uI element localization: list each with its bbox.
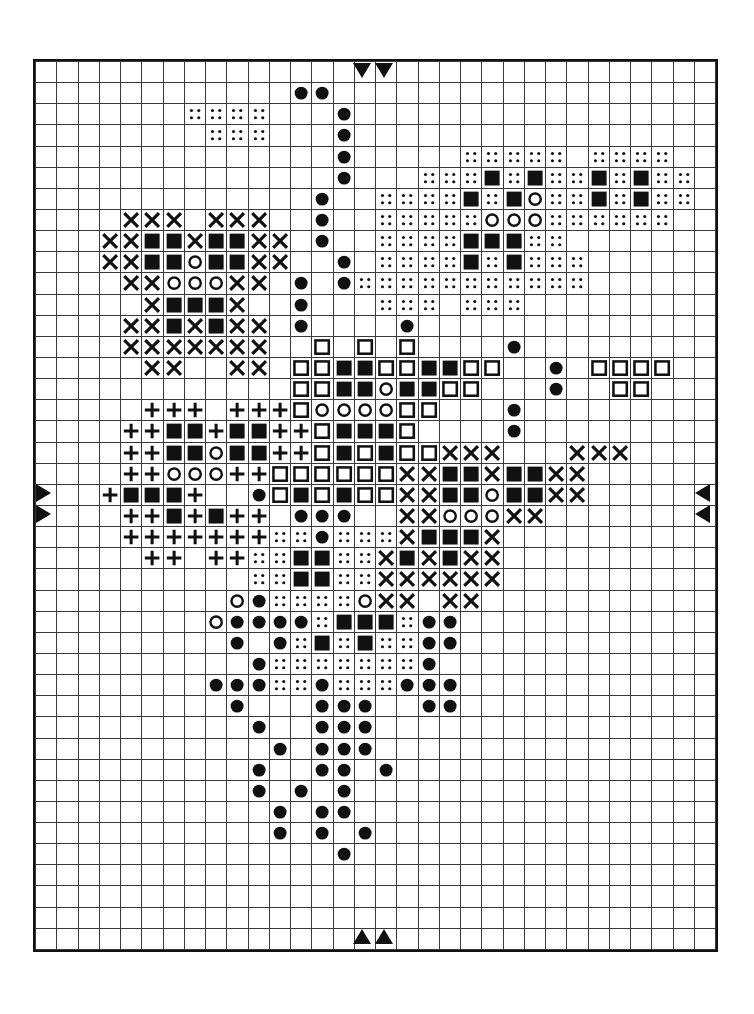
stitch-cell <box>503 400 524 421</box>
stitch-cell <box>418 463 439 484</box>
stitch-cell-empty <box>57 569 78 590</box>
stitch-cell-empty <box>588 336 609 357</box>
stitch-cell <box>227 442 248 463</box>
stitch-cell-empty <box>36 844 57 865</box>
stitch-cell <box>248 569 269 590</box>
stitch-cell-empty <box>78 125 99 146</box>
stitch-cell-empty <box>567 653 588 674</box>
stitch-cell-empty <box>588 125 609 146</box>
open-square-symbol <box>440 379 460 399</box>
filled-circle-symbol <box>334 760 354 780</box>
stitch-cell <box>142 548 163 569</box>
open-circle-symbol <box>525 210 545 230</box>
stitch-cell-empty <box>694 273 715 294</box>
stitch-cell-empty <box>78 421 99 442</box>
stitch-cell <box>418 653 439 674</box>
stitch-cell-empty <box>652 379 673 400</box>
stitch-cell-empty <box>121 104 142 125</box>
stitch-cell-empty <box>184 188 205 209</box>
stitch-cell-empty <box>631 336 652 357</box>
stitch-cell <box>418 231 439 252</box>
open-square-symbol <box>376 358 396 378</box>
stitch-cell-empty <box>163 146 184 167</box>
stitch-cell-empty <box>546 907 567 928</box>
stitch-cell-empty <box>461 83 482 104</box>
stitch-cell-empty <box>482 759 503 780</box>
stitch-cell-empty <box>652 759 673 780</box>
stitch-cell-empty <box>439 62 460 83</box>
stitch-cell-empty <box>397 886 418 907</box>
stitch-cell <box>248 653 269 674</box>
cross-symbol <box>419 548 439 568</box>
open-square-symbol <box>355 443 375 463</box>
stitch-cell-empty <box>121 907 142 928</box>
stitch-row <box>36 294 716 315</box>
filled-circle-symbol <box>397 675 417 695</box>
stitch-cell-empty <box>524 294 545 315</box>
stitch-cell-empty <box>36 463 57 484</box>
stitch-cell-empty <box>588 484 609 505</box>
stitch-cell-empty <box>418 823 439 844</box>
stitch-cell-empty <box>609 653 630 674</box>
stitch-cell-empty <box>142 928 163 949</box>
cross-symbol <box>461 443 481 463</box>
stitch-cell <box>461 146 482 167</box>
stitch-cell-empty <box>291 928 312 949</box>
stitch-cell-empty <box>57 801 78 822</box>
filled-circle-symbol <box>504 421 524 441</box>
stitch-cell <box>397 484 418 505</box>
stitch-cell <box>227 696 248 717</box>
stitch-cell <box>397 590 418 611</box>
stitch-cell-empty <box>461 907 482 928</box>
stitch-cell <box>99 484 120 505</box>
stitch-cell-empty <box>376 104 397 125</box>
stitch-cell-empty <box>461 632 482 653</box>
stitch-cell-empty <box>461 315 482 336</box>
stitch-cell <box>652 188 673 209</box>
stitch-cell <box>354 738 375 759</box>
stitch-cell-empty <box>609 252 630 273</box>
stitch-cell-empty <box>673 104 694 125</box>
stitch-cell <box>609 167 630 188</box>
stitch-cell <box>206 294 227 315</box>
open-circle-symbol <box>482 210 502 230</box>
stitch-cell <box>333 780 354 801</box>
stitch-cell <box>227 675 248 696</box>
stitch-cell <box>397 357 418 378</box>
stitch-cell-empty <box>397 717 418 738</box>
stitch-cell-empty <box>57 357 78 378</box>
stitch-cell-empty <box>78 463 99 484</box>
stitch-cell-empty <box>36 780 57 801</box>
stitch-cell <box>567 167 588 188</box>
filled-circle-symbol <box>249 612 269 632</box>
stitch-cell <box>588 442 609 463</box>
stitch-cell-empty <box>418 125 439 146</box>
stitch-cell-empty <box>673 611 694 632</box>
stitch-cell-empty <box>78 104 99 125</box>
dotted-symbol <box>355 273 375 293</box>
dotted-symbol <box>376 231 396 251</box>
stitch-cell-empty <box>248 188 269 209</box>
stitch-cell <box>482 442 503 463</box>
stitch-cell-empty <box>567 696 588 717</box>
stitch-cell <box>227 400 248 421</box>
dotted-symbol <box>567 273 587 293</box>
stitch-cell-empty <box>588 62 609 83</box>
stitch-cell-empty <box>524 357 545 378</box>
stitch-cell-empty <box>78 590 99 611</box>
stitch-cell <box>184 273 205 294</box>
stitch-cell <box>567 484 588 505</box>
filled-square-symbol <box>312 633 332 653</box>
stitch-cell-empty <box>227 759 248 780</box>
filled-square-symbol <box>142 485 162 505</box>
stitch-row <box>36 484 716 505</box>
stitch-cell <box>184 463 205 484</box>
stitch-cell <box>354 442 375 463</box>
stitch-cell-empty <box>567 400 588 421</box>
stitch-cell <box>482 188 503 209</box>
stitch-cell-empty <box>333 231 354 252</box>
stitch-cell-empty <box>567 379 588 400</box>
stitch-cell-empty <box>609 484 630 505</box>
stitch-cell <box>354 421 375 442</box>
stitch-row <box>36 336 716 357</box>
